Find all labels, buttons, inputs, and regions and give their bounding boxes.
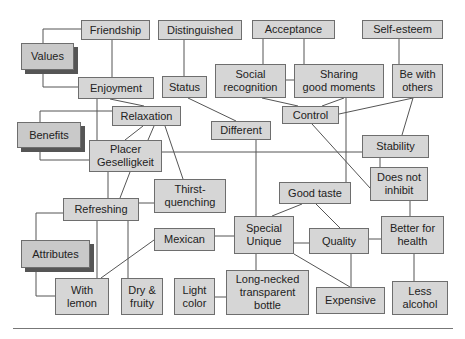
node-stability: Stability <box>362 135 429 158</box>
node-relaxation: Relaxation <box>112 106 181 126</box>
node-quality: Quality <box>309 228 369 254</box>
node-control: Control <box>282 106 339 124</box>
node-social-recognition: Social recognition <box>215 64 286 98</box>
means-end-diagram: Values Benefits Attributes Friendship Di… <box>0 0 465 339</box>
node-enjoyment: Enjoyment <box>78 77 154 99</box>
node-placer-geselligkeit: Placer Geselligkeit <box>89 140 162 172</box>
node-expensive: Expensive <box>316 287 385 314</box>
category-benefits: Benefits <box>17 122 81 148</box>
category-attributes: Attributes <box>21 240 90 268</box>
node-thirst-quenching: Thirst- quenching <box>154 179 226 213</box>
node-mexican: Mexican <box>154 228 215 251</box>
node-special-unique: Special Unique <box>234 216 294 254</box>
node-distinguished: Distinguished <box>158 20 242 40</box>
node-dry-fruity: Dry & fruity <box>121 278 163 315</box>
node-refreshing: Refreshing <box>63 198 139 221</box>
node-good-taste: Good taste <box>279 182 351 204</box>
bottom-divider <box>13 328 453 329</box>
node-different: Different <box>211 121 271 140</box>
category-values: Values <box>21 43 74 70</box>
node-status: Status <box>162 76 207 98</box>
node-self-esteem: Self-esteem <box>362 20 443 39</box>
node-less-alcohol: Less alcohol <box>392 281 448 315</box>
node-light-color: Light color <box>174 278 215 315</box>
node-better-for-health: Better for health <box>381 216 444 254</box>
node-does-not-inhibit: Does not inhibit <box>370 167 428 201</box>
node-acceptance: Acceptance <box>252 20 335 39</box>
node-sharing-good-moments: Sharing good moments <box>294 64 384 98</box>
node-long-necked-bottle: Long-necked transparent bottle <box>226 270 309 315</box>
node-friendship: Friendship <box>81 20 150 40</box>
node-be-with-others: Be with others <box>392 64 443 98</box>
node-with-lemon: With lemon <box>55 278 109 315</box>
